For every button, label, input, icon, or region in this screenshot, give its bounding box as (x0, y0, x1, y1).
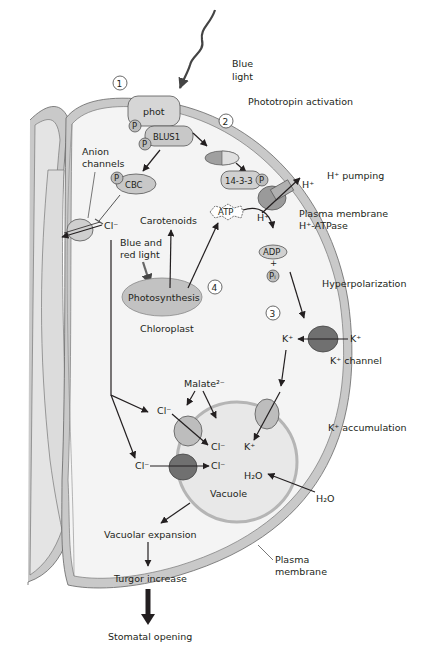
phot-phospho-label: P (132, 121, 137, 131)
photosynthesis-label: Photosynthesis (128, 292, 200, 303)
vacuolar-expansion-label: Vacuolar expansion (104, 529, 197, 540)
step-2-number: 2 (223, 117, 229, 127)
vacuolar-anion-transporter (169, 454, 197, 480)
atpase-label-1: Plasma membrane (299, 208, 388, 219)
blue-light-label-1: Blue (232, 58, 253, 69)
hyperpolarization-label: Hyperpolarization (322, 278, 406, 289)
adp-label: ADP (263, 247, 281, 257)
atp-label: ATP (218, 207, 233, 217)
cbc-phospho-label: P (114, 173, 119, 183)
plasma-membrane-leader (258, 545, 273, 560)
k-channel-label: K⁺ channel (330, 355, 382, 366)
blus1-label: BLUS1 (153, 132, 180, 142)
step-1-number: 1 (117, 79, 123, 89)
phot-label: phot (143, 106, 165, 117)
k-plus-inside-label: K⁺ (282, 333, 293, 344)
cl-label-anion-channel: Cl⁻ (104, 220, 118, 231)
pi-label: Pᵢ (269, 271, 276, 281)
anion-channels-label-1: Anion (82, 146, 109, 157)
h-plus-outside-label: H⁺ (302, 179, 314, 190)
atpase-label-2: H⁺-ATPase (299, 220, 348, 231)
step-3-number: 3 (270, 309, 276, 319)
turgor-increase-label: Turgor increase (113, 573, 187, 584)
blue-red-light-label-2: red light (120, 249, 160, 260)
k-plus-vacuole-label: K⁺ (244, 441, 255, 452)
vacuolar-anion-channel (174, 416, 202, 446)
anion-channel (67, 219, 93, 241)
stomatal-opening-label: Stomatal opening (108, 631, 192, 642)
protein-14-3-3-label: 14-3-3 (225, 176, 253, 186)
vacuolar-k-channel (255, 399, 279, 429)
cl-label-upper-vacuole: Cl⁻ (211, 441, 225, 452)
h2o-outside-label: H₂O (316, 493, 334, 504)
cl-label-lower-cytosol: Cl⁻ (135, 460, 149, 471)
cl-label-lower-vacuole: Cl⁻ (211, 460, 225, 471)
cl-label-upper-cytosol: Cl⁻ (157, 405, 171, 416)
vacuole-label: Vacuole (210, 488, 247, 499)
anion-channels-label-2: channels (82, 158, 125, 169)
blus1-phospho-label: P (142, 139, 147, 149)
blue-red-light-label-1: Blue and (120, 237, 162, 248)
k-plus-outside-label: K⁺ (350, 333, 361, 344)
k-accumulation-label: K⁺ accumulation (328, 422, 407, 433)
h2o-vacuole-label: H₂O (244, 470, 262, 481)
step-4-number: 4 (212, 283, 218, 293)
atpase-phospho-label: P (259, 175, 264, 185)
plasma-membrane-label-1: Plasma (275, 554, 309, 565)
phototropin-activation-label: Phototropin activation (248, 96, 353, 107)
carotenoids-label: Carotenoids (140, 215, 197, 226)
chloroplast-label: Chloroplast (140, 323, 194, 334)
plasma-membrane-label-2: membrane (275, 566, 327, 577)
cbc-label: CBC (125, 180, 143, 190)
h-plus-inside-label: H⁺ (257, 212, 269, 223)
stomatal-opening-diagram: Blue light 1 phot P BLUS1 P 2 Phototropi… (0, 0, 428, 661)
blue-light-wave-icon (180, 10, 215, 88)
plus-label: + (270, 258, 277, 268)
blue-light-label-2: light (232, 71, 253, 82)
h-pumping-label: H⁺ pumping (327, 170, 384, 181)
malate-label: Malate²⁻ (184, 378, 225, 389)
